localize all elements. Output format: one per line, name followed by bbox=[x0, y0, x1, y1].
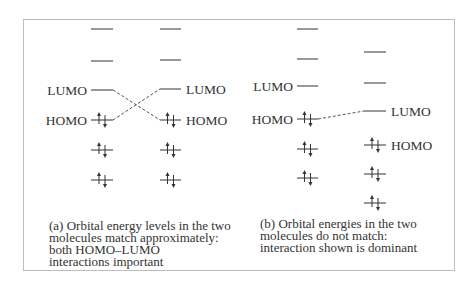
homo-label: HOMO bbox=[252, 112, 294, 127]
spin-down-arrow-icon bbox=[376, 140, 380, 153]
homo-label: HOMO bbox=[186, 113, 228, 128]
lumo-label: LUMO bbox=[47, 83, 87, 98]
spin-down-arrow-icon bbox=[172, 175, 176, 188]
occupied-orbital bbox=[364, 137, 386, 153]
spin-up-arrow-icon bbox=[166, 142, 170, 154]
occupied-orbital bbox=[364, 195, 386, 211]
occupied-orbital bbox=[91, 172, 113, 188]
spin-down-arrow-icon bbox=[376, 169, 380, 182]
spin-up-arrow-icon bbox=[370, 166, 374, 178]
spin-down-arrow-icon bbox=[172, 145, 176, 158]
spin-down-arrow-icon bbox=[376, 198, 380, 211]
spin-up-arrow-icon bbox=[370, 195, 374, 207]
caption-a-line-4: interactions important bbox=[49, 256, 231, 268]
spin-up-arrow-icon bbox=[166, 172, 170, 184]
spin-up-arrow-icon bbox=[303, 141, 307, 153]
occupied-orbital bbox=[297, 111, 318, 127]
homo-label: HOMO bbox=[46, 113, 88, 128]
occupied-orbital bbox=[297, 141, 318, 157]
spin-up-arrow-icon bbox=[303, 170, 307, 182]
spin-down-arrow-icon bbox=[172, 115, 176, 128]
homo-label: HOMO bbox=[391, 138, 433, 153]
energy-levels bbox=[91, 29, 386, 211]
spin-down-arrow-icon bbox=[309, 144, 313, 157]
occupied-orbital bbox=[364, 166, 386, 182]
spin-down-arrow-icon bbox=[103, 175, 107, 188]
spin-up-arrow-icon bbox=[370, 137, 374, 149]
spin-up-arrow-icon bbox=[97, 142, 101, 154]
lumo-label: LUMO bbox=[186, 82, 226, 97]
occupied-orbital bbox=[91, 112, 113, 128]
spin-down-arrow-icon bbox=[309, 114, 313, 127]
occupied-orbital bbox=[91, 142, 113, 158]
spin-up-arrow-icon bbox=[303, 111, 307, 123]
occupied-orbital bbox=[160, 142, 181, 158]
lumo-label: LUMO bbox=[391, 104, 431, 119]
occupied-orbital bbox=[160, 172, 181, 188]
caption-a: (a) Orbital energy levels in the two mol… bbox=[49, 220, 231, 268]
spin-up-arrow-icon bbox=[97, 112, 101, 124]
occupied-orbital bbox=[297, 170, 318, 186]
lumo-label: LUMO bbox=[253, 79, 293, 94]
spin-down-arrow-icon bbox=[103, 115, 107, 128]
caption-b-line-3: interaction shown is dominant bbox=[260, 242, 417, 254]
caption-b: (b) Orbital energies in the two molecule… bbox=[260, 218, 417, 254]
spin-down-arrow-icon bbox=[103, 145, 107, 158]
spin-down-arrow-icon bbox=[309, 173, 313, 186]
spin-up-arrow-icon bbox=[166, 112, 170, 124]
interaction-lines bbox=[113, 89, 364, 120]
occupied-orbital bbox=[160, 112, 181, 128]
interaction-dashed-line bbox=[318, 111, 364, 119]
spin-up-arrow-icon bbox=[97, 172, 101, 184]
